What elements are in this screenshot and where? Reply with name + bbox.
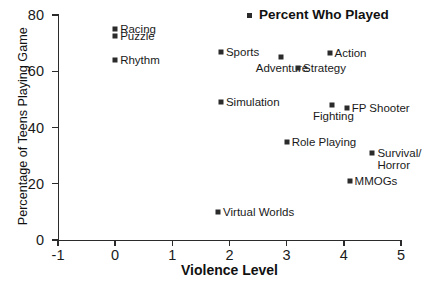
x-tick--1 <box>57 240 58 246</box>
y-tick-60 <box>52 71 59 72</box>
data-point <box>216 209 221 214</box>
y-tick-80 <box>52 14 59 15</box>
data-point <box>113 27 118 32</box>
data-point-label: Survival/ Horror <box>377 147 421 171</box>
x-tick-3 <box>286 240 287 246</box>
x-tick-2 <box>229 240 230 246</box>
data-point <box>344 105 349 110</box>
data-point <box>278 55 283 60</box>
x-tick-1 <box>172 240 173 246</box>
data-point <box>327 50 332 55</box>
data-point <box>218 49 223 54</box>
x-tick-label-3: 3 <box>272 248 302 263</box>
data-point <box>347 178 352 183</box>
data-point-label: Strategy <box>303 62 346 74</box>
x-tick-label-0: 0 <box>100 248 130 263</box>
data-point-label: Puzzle <box>120 30 155 42</box>
y-tick-20 <box>52 183 59 184</box>
data-point-label: Action <box>335 47 367 59</box>
x-tick-4 <box>343 240 344 246</box>
scatter-chart: 020406080 -1012345 RacingPuzzleRhythmSpo… <box>0 0 422 281</box>
legend-label: Percent Who Played <box>259 8 389 22</box>
data-point-label: Virtual Worlds <box>223 206 294 218</box>
data-point <box>370 150 375 155</box>
x-tick-label-1: 1 <box>157 248 187 263</box>
y-axis-title: Percentage of Teens Playing Game <box>17 11 30 241</box>
data-point <box>218 100 223 105</box>
y-tick-40 <box>52 127 59 128</box>
data-point-label: Simulation <box>226 96 280 108</box>
data-point-label: Sports <box>226 46 259 58</box>
data-point <box>296 66 301 71</box>
x-tick-label-2: 2 <box>215 248 245 263</box>
x-tick-label-5: 5 <box>386 248 416 263</box>
data-point <box>330 103 335 108</box>
data-point <box>284 139 289 144</box>
legend: Percent Who Played <box>247 8 389 22</box>
legend-marker-icon <box>247 13 252 18</box>
data-point-label: Rhythm <box>120 54 160 66</box>
data-point-label: FP Shooter <box>352 102 410 114</box>
x-axis-title: Violence Level <box>58 263 401 277</box>
data-point <box>113 58 118 63</box>
data-point <box>113 34 118 39</box>
x-tick-label--1: -1 <box>43 248 73 263</box>
x-tick-label-4: 4 <box>329 248 359 263</box>
data-point-label: Role Playing <box>292 136 357 148</box>
x-tick-0 <box>114 240 115 246</box>
data-point-label: MMOGs <box>355 175 398 187</box>
x-tick-5 <box>400 240 401 246</box>
